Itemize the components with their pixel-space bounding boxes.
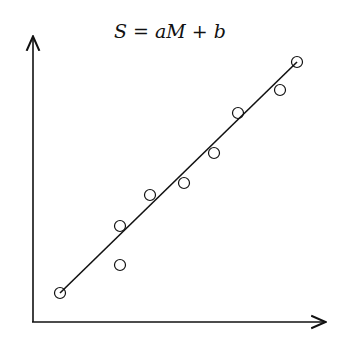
data-point <box>145 190 156 201</box>
fit-line <box>60 62 297 293</box>
data-point <box>275 85 286 96</box>
data-point <box>209 148 220 159</box>
data-point <box>233 108 244 119</box>
data-point <box>115 260 126 271</box>
data-point <box>115 221 126 232</box>
data-point <box>179 178 190 189</box>
scatter-plot <box>0 0 340 350</box>
